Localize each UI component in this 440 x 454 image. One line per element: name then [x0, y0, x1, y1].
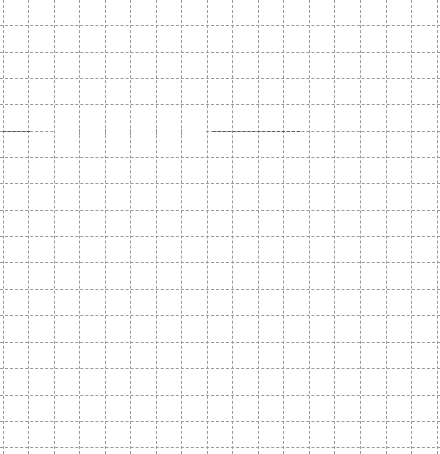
grid-vertical-line	[54, 0, 55, 454]
grid-vertical-line	[130, 129, 131, 135]
grid-vertical-line	[130, 0, 131, 454]
grid-highlight-segment	[3, 131, 30, 132]
grid-horizontal-line	[0, 262, 440, 263]
grid-vertical-line	[105, 129, 106, 135]
grid-horizontal-line	[0, 183, 440, 184]
grid-horizontal-line	[0, 25, 440, 26]
grid-horizontal-line	[0, 315, 440, 316]
grid-vertical-line	[3, 0, 4, 454]
grid-horizontal-line	[0, 421, 440, 422]
grid-horizontal-line	[0, 52, 440, 53]
grid-horizontal-line	[0, 368, 440, 369]
grid-vertical-line	[437, 0, 438, 454]
grid-vertical-line	[28, 0, 29, 454]
grid-horizontal-line	[0, 78, 440, 79]
grid-horizontal-line	[0, 157, 440, 158]
grid-vertical-line	[105, 0, 106, 454]
grid-horizontal-line	[0, 289, 440, 290]
grid-vertical-line	[232, 0, 233, 454]
grid-vertical-line	[156, 0, 157, 454]
grid-horizontal-line	[0, 210, 440, 211]
grid-horizontal-line	[0, 236, 440, 237]
grid-vertical-line	[411, 0, 412, 454]
grid-vertical-line	[79, 0, 80, 454]
grid-vertical-line	[309, 0, 310, 454]
grid-vertical-line	[181, 129, 182, 135]
grid-vertical-line	[334, 0, 335, 454]
grid-vertical-line	[386, 0, 387, 454]
grid-horizontal-line	[0, 447, 440, 448]
grid-vertical-line	[181, 0, 182, 454]
dashed-grid	[0, 0, 440, 454]
grid-vertical-line	[360, 0, 361, 454]
grid-horizontal-line	[0, 104, 440, 105]
grid-highlight-segment	[213, 131, 300, 132]
grid-vertical-line	[258, 0, 259, 454]
grid-vertical-line	[156, 129, 157, 135]
grid-vertical-line	[207, 0, 208, 454]
grid-horizontal-line	[0, 342, 440, 343]
grid-horizontal-line	[0, 395, 440, 396]
grid-vertical-line	[79, 129, 80, 135]
grid-vertical-line	[283, 0, 284, 454]
